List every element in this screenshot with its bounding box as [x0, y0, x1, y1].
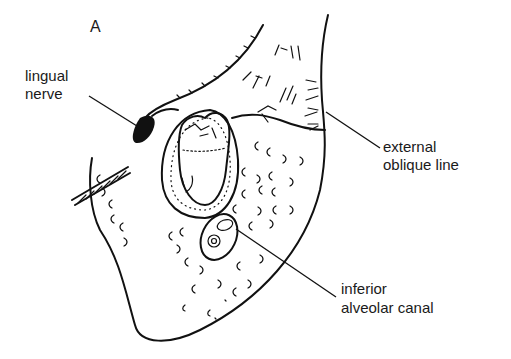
label-external-oblique-line2: oblique line — [383, 157, 459, 173]
panel-letter: A — [90, 19, 101, 35]
label-inferior-alveolar-line1: inferior — [341, 281, 387, 297]
mandible-drawing — [0, 0, 511, 359]
label-lingual-nerve-line1: lingual — [25, 68, 68, 84]
alveolar-crest-line — [232, 115, 325, 130]
ramus-surface-marks — [243, 45, 318, 130]
canal-artery-inner — [212, 239, 217, 244]
inferior-alveolar-leader — [236, 229, 336, 297]
mandible-cross-section-diagram: A lingual nerve external oblique line in… — [0, 0, 511, 359]
hatched-bar — [72, 167, 130, 205]
label-external-oblique-line1: external — [383, 139, 436, 155]
ramus-lingual-edge — [145, 25, 263, 118]
enamel-junction — [183, 148, 226, 151]
canal-vein — [216, 218, 234, 233]
external-outline — [90, 15, 328, 341]
lingual-nerve-shape — [133, 116, 155, 143]
tooth-marks — [182, 176, 193, 192]
cancellous-bone-marks — [97, 142, 303, 319]
lingual-nerve-leader — [89, 96, 137, 126]
external-oblique-leader — [326, 112, 380, 148]
ramus-edge-hatching — [177, 36, 255, 98]
canal-artery-outer — [208, 235, 220, 247]
label-inferior-alveolar-line2: alveolar canal — [341, 300, 434, 316]
label-lingual-nerve-line2: nerve — [25, 86, 63, 102]
